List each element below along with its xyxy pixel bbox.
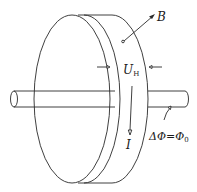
flux-pointer-arrow	[164, 106, 171, 120]
label-current: I	[125, 138, 131, 152]
label-hall-voltage: UH	[123, 63, 139, 78]
hall-ring-diagram: B UH I ΔΦ=Φ0	[0, 0, 197, 192]
magnetic-field-arrow	[122, 14, 155, 43]
ring-outer-arc	[112, 15, 148, 183]
ring-inner-arc	[84, 15, 120, 183]
ring-front-face	[34, 15, 110, 183]
rod-end-cap	[11, 91, 18, 107]
label-b: B	[156, 10, 166, 24]
current-arrow	[128, 86, 132, 135]
label-flux: ΔΦ=Φ0	[148, 130, 189, 144]
rod	[11, 91, 189, 107]
